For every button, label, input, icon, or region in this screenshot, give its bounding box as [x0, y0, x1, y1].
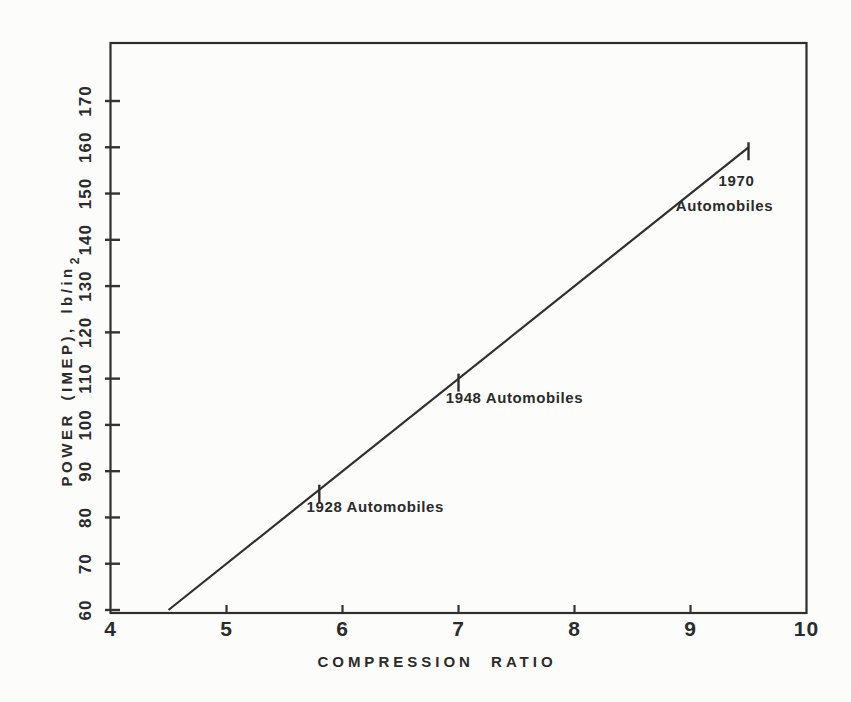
plot-frame	[111, 43, 807, 613]
y-tick-label: 90	[76, 461, 95, 482]
x-tick-label: 8	[568, 617, 581, 640]
y-axis-title-main: POWER (IMEP), lb/in	[58, 265, 75, 486]
x-axis-ticks: 45678910	[104, 605, 819, 640]
annotation-label: 1928 Automobiles	[307, 498, 444, 515]
x-tick-label: 5	[220, 617, 233, 640]
x-tick-label: 6	[336, 617, 349, 640]
y-tick-label: 70	[76, 553, 95, 574]
x-tick-label: 7	[452, 617, 465, 640]
y-tick-label: 110	[76, 363, 95, 393]
y-tick-label: 150	[76, 178, 95, 209]
annotations-group: 1928 Automobiles1948 Automobiles1970Auto…	[307, 142, 774, 514]
y-tick-label: 80	[76, 507, 95, 528]
annotation-label: Automobiles	[676, 197, 773, 214]
x-tick-label: 10	[794, 617, 819, 640]
annotation-label: 1948 Automobiles	[446, 389, 583, 406]
x-tick-label: 4	[104, 617, 117, 640]
y-tick-label: 170	[76, 85, 95, 116]
x-tick-label: 9	[684, 617, 697, 640]
chart: 60708090100110120130140150160170 4567891…	[0, 0, 851, 702]
y-tick-label: 160	[76, 132, 95, 163]
y-tick-label: 60	[76, 600, 95, 621]
x-axis-title: COMPRESSION RATIO	[317, 653, 556, 670]
y-tick-label: 120	[76, 317, 95, 348]
y-axis-title-superscript: 2	[68, 257, 82, 264]
figure-page: 60708090100110120130140150160170 4567891…	[0, 0, 851, 702]
y-tick-label: 130	[76, 270, 95, 301]
y-axis-ticks: 60708090100110120130140150160170	[76, 85, 120, 620]
annotation-label: 1970	[719, 172, 755, 189]
y-tick-label: 100	[76, 409, 95, 440]
y-tick-label: 140	[76, 224, 95, 255]
